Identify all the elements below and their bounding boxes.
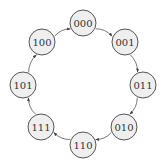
state-node-000: 000 xyxy=(70,10,96,36)
edge-arrow-010-to-110 xyxy=(96,133,111,140)
node-label: 000 xyxy=(73,18,92,29)
edge-arrow-000-to-001 xyxy=(96,29,112,36)
edge-arrow-110-to-111 xyxy=(54,133,70,140)
state-node-010: 010 xyxy=(111,114,137,140)
state-node-011: 011 xyxy=(130,72,156,98)
node-label: 010 xyxy=(114,122,133,133)
state-node-001: 001 xyxy=(112,29,138,55)
node-label: 111 xyxy=(31,122,50,133)
nodes-group: 000001011010110111101100 xyxy=(10,10,156,158)
node-label: 001 xyxy=(115,37,134,48)
state-node-100: 100 xyxy=(29,29,55,55)
state-node-111: 111 xyxy=(28,114,54,140)
node-label: 110 xyxy=(73,140,92,151)
edge-arrow-111-to-101 xyxy=(28,98,35,114)
state-diagram: 000001011010110111101100 xyxy=(0,0,165,168)
edge-arrow-001-to-011 xyxy=(130,55,137,72)
edge-arrow-011-to-010 xyxy=(130,98,137,114)
node-label: 100 xyxy=(32,37,51,48)
node-label: 011 xyxy=(133,80,152,91)
edge-arrow-101-to-100 xyxy=(29,55,37,72)
state-node-110: 110 xyxy=(70,132,96,158)
edge-arrow-100-to-000 xyxy=(55,29,71,36)
node-label: 101 xyxy=(13,80,32,91)
state-node-101: 101 xyxy=(10,72,36,98)
